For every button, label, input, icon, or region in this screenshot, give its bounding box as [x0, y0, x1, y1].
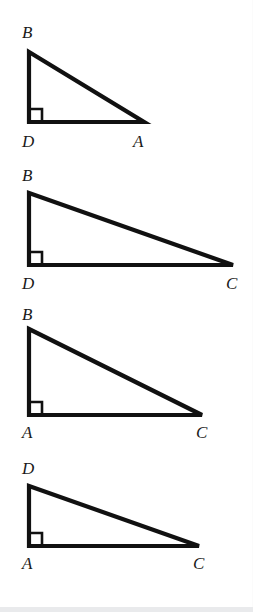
bottom-edge-strip	[0, 607, 253, 612]
triangle-diagram-3: B A C	[0, 298, 253, 450]
vertex-label-origin-3: A	[21, 423, 33, 442]
triangle-diagram-1: B D A	[0, 0, 253, 158]
vertex-label-apex-1: B	[22, 23, 33, 42]
vertex-label-origin-2: D	[21, 274, 35, 293]
triangle-outline-2	[29, 193, 233, 265]
figure-block-2: B D C	[0, 158, 253, 298]
vertex-label-far-2: C	[226, 274, 238, 293]
vertex-label-apex-2: B	[22, 166, 33, 185]
vertex-label-far-3: C	[196, 423, 208, 442]
triangle-outline-4	[29, 486, 199, 546]
vertex-label-origin-1: D	[21, 132, 35, 151]
figure-block-4: D A C	[0, 450, 253, 612]
vertex-label-apex-3: B	[22, 305, 33, 324]
figure-sheet: B D A B D C B A C D A C	[0, 0, 253, 612]
triangle-outline-3	[29, 329, 202, 415]
vertex-label-apex-4: D	[21, 459, 35, 478]
triangle-outline-1	[29, 52, 144, 122]
vertex-label-origin-4: A	[21, 554, 33, 573]
triangle-diagram-4: D A C	[0, 450, 253, 612]
vertex-label-far-4: C	[193, 554, 205, 573]
figure-block-3: B A C	[0, 298, 253, 450]
right-edge-strip	[252, 0, 253, 612]
triangle-diagram-2: B D C	[0, 158, 253, 298]
figure-block-1: B D A	[0, 0, 253, 158]
vertex-label-far-1: A	[132, 132, 144, 151]
